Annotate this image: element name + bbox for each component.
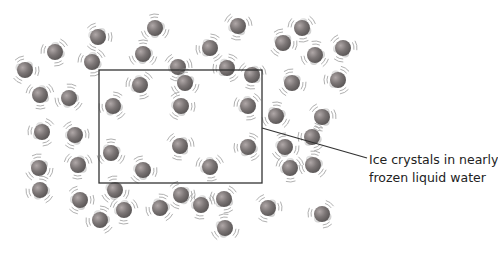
water-molecule <box>63 122 89 149</box>
water-molecule <box>146 194 173 221</box>
water-molecule <box>126 72 152 99</box>
water-molecule <box>102 176 129 202</box>
water-molecule <box>55 84 82 110</box>
water-molecule <box>170 92 195 120</box>
water-molecule <box>14 56 39 83</box>
water-molecule <box>64 154 92 179</box>
water-molecule <box>256 195 282 222</box>
water-molecule <box>331 35 357 62</box>
water-molecule <box>225 14 252 40</box>
water-molecule <box>279 69 306 96</box>
water-molecule <box>167 134 194 160</box>
water-molecule <box>271 29 297 56</box>
water-molecule <box>141 14 169 39</box>
water-molecule <box>196 34 222 61</box>
water-molecule <box>324 66 349 94</box>
water-molecule <box>131 156 157 183</box>
water-molecule <box>97 139 125 164</box>
water-molecule <box>28 119 54 146</box>
water-molecule <box>69 186 94 214</box>
water-molecule <box>234 94 261 120</box>
water-molecule <box>41 39 67 66</box>
water-molecule <box>78 50 105 76</box>
water-molecule <box>310 104 336 131</box>
water-molecule <box>196 155 223 181</box>
water-molecule <box>234 133 259 161</box>
water-molecule <box>26 84 54 109</box>
callout-line-2: frozen liquid water <box>369 169 498 187</box>
water-molecule <box>99 92 125 119</box>
water-molecule <box>213 54 238 82</box>
water-molecule <box>212 214 239 240</box>
callout-line-1: Ice crystals in nearly <box>369 151 498 169</box>
water-molecule <box>87 23 112 51</box>
water-molecule <box>26 176 53 203</box>
water-molecule <box>86 206 112 233</box>
water-molecule <box>288 16 315 42</box>
water-molecule <box>110 199 138 224</box>
water-molecule <box>129 40 157 65</box>
callout-label: Ice crystals in nearly frozen liquid wat… <box>369 151 498 187</box>
water-molecule <box>301 41 328 67</box>
water-molecules <box>14 14 357 240</box>
water-molecule <box>308 201 334 228</box>
water-molecule <box>262 102 289 127</box>
